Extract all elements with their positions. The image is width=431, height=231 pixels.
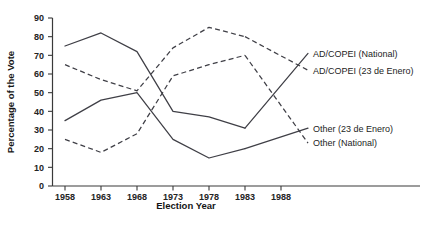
y-tick-label: 20 bbox=[34, 144, 44, 154]
x-tick-label: 1958 bbox=[55, 192, 75, 202]
y-tick-label: 40 bbox=[34, 107, 44, 117]
x-axis-title: Election Year bbox=[156, 200, 216, 211]
legend-label: AD/COPEI (National) bbox=[313, 49, 398, 59]
y-tick-label: 60 bbox=[34, 69, 44, 79]
x-tick-group bbox=[65, 186, 281, 191]
y-tick-label: 80 bbox=[34, 32, 44, 42]
x-tick-label: 1988 bbox=[271, 192, 291, 202]
y-axis-title: Percentage of the Vote bbox=[5, 51, 16, 153]
series-line bbox=[65, 55, 245, 152]
y-tick-label: 30 bbox=[34, 125, 44, 135]
series-group bbox=[65, 27, 308, 158]
legend-group: AD/COPEI (National)AD/COPEI (23 de Enero… bbox=[313, 49, 414, 149]
x-axis: 1958196319681973197819831988 bbox=[53, 186, 421, 202]
y-tick-label: 70 bbox=[34, 51, 44, 61]
x-tick-label: 1968 bbox=[127, 192, 147, 202]
legend-label: Other (23 de Enero) bbox=[313, 124, 393, 134]
legend-label: Other (National) bbox=[313, 138, 377, 148]
x-tick-label: 1983 bbox=[235, 192, 255, 202]
series-leader bbox=[245, 128, 308, 149]
y-axis: 0102030405060708090 bbox=[34, 13, 53, 191]
chart-canvas: 0102030405060708090 19581963196819731978… bbox=[0, 0, 431, 231]
series-line bbox=[65, 33, 245, 128]
series-leader bbox=[245, 55, 308, 143]
x-tick-label: 1963 bbox=[91, 192, 111, 202]
y-tick-group bbox=[48, 18, 53, 186]
line-chart: 0102030405060708090 19581963196819731978… bbox=[0, 0, 431, 231]
series-leader bbox=[245, 37, 308, 71]
y-tick-label: 50 bbox=[34, 88, 44, 98]
y-tick-label: 0 bbox=[39, 181, 44, 191]
legend-label: AD/COPEI (23 de Enero) bbox=[313, 66, 414, 76]
y-tick-label: 10 bbox=[34, 163, 44, 173]
y-tick-label: 90 bbox=[34, 13, 44, 23]
series-line bbox=[65, 93, 245, 158]
y-tick-labels: 0102030405060708090 bbox=[34, 13, 44, 191]
